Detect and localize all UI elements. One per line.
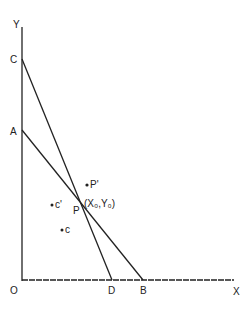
line-ab bbox=[22, 130, 143, 280]
point-p-prime-label: P' bbox=[90, 179, 99, 190]
point-d-label: D bbox=[108, 285, 115, 296]
diagram-canvas: Y X O C A D B P' P (X₀,Y₀) c' c bbox=[0, 0, 251, 310]
point-b-label: B bbox=[140, 285, 147, 296]
point-p-prime-dot bbox=[85, 183, 88, 186]
y-axis-label: Y bbox=[13, 19, 20, 30]
point-p-coords-label: (X₀,Y₀) bbox=[84, 198, 115, 209]
x-axis-label: X bbox=[233, 286, 240, 297]
point-c-upper-label: C bbox=[10, 54, 17, 65]
point-a-label: A bbox=[10, 126, 17, 137]
point-c-dot bbox=[61, 229, 64, 232]
point-c-prime-label: c' bbox=[55, 199, 62, 210]
line-cd bbox=[22, 59, 112, 280]
point-p-label: P bbox=[73, 205, 80, 216]
origin-label: O bbox=[10, 285, 18, 296]
point-c-prime-dot bbox=[51, 204, 54, 207]
point-c-label: c bbox=[65, 224, 70, 235]
